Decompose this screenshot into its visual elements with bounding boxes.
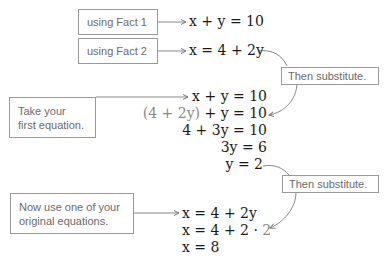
callout-take-first-equation: Take your first equation. bbox=[9, 97, 96, 138]
equation-text: x + y = 10 bbox=[192, 88, 267, 104]
callout-using-fact-1: using Fact 1 bbox=[78, 9, 158, 35]
substituted-value: 2 bbox=[262, 222, 271, 238]
equation-final-2: x = 4 + 2 · 2 bbox=[182, 222, 271, 239]
equation-text: x = 4 + 2 · bbox=[182, 222, 262, 238]
callout-text-line1: Take your bbox=[18, 104, 84, 118]
equation-text: x = 4 + 2y bbox=[182, 205, 257, 221]
callout-then-substitute-1: Then substitute. bbox=[281, 67, 379, 85]
callout-text-line1: Now use one of your bbox=[19, 200, 120, 214]
callout-text-line2: original equations. bbox=[19, 214, 120, 228]
equation-fact-2: x = 4 + 2y bbox=[189, 42, 264, 59]
callout-then-substitute-2: Then substitute. bbox=[282, 175, 379, 193]
equation-text: 4 + 3y = 10 bbox=[182, 122, 267, 138]
substituted-expression: (4 + 2y) bbox=[143, 105, 200, 121]
equation-final-1: x = 4 + 2y bbox=[182, 205, 257, 222]
equation-text: x = 8 bbox=[182, 239, 219, 255]
equation-final-3: x = 8 bbox=[182, 239, 219, 256]
callout-using-fact-2: using Fact 2 bbox=[78, 38, 158, 64]
callout-text: Then substitute. bbox=[289, 177, 367, 191]
equation-text: 3y = 6 bbox=[221, 139, 267, 155]
equation-text: x = 4 + 2y bbox=[189, 42, 264, 58]
equation-text: x + y = 10 bbox=[189, 13, 264, 29]
callout-text: using Fact 2 bbox=[87, 44, 147, 58]
callout-text-line2: first equation. bbox=[18, 118, 84, 132]
callout-now-use-original: Now use one of your original equations. bbox=[10, 193, 134, 234]
callout-text: using Fact 1 bbox=[87, 15, 147, 29]
equation-step-2: (4 + 2y) + y = 10 bbox=[143, 105, 267, 122]
equation-text: y = 2 bbox=[226, 156, 263, 172]
equation-step-1: x + y = 10 bbox=[192, 88, 267, 105]
equation-fact-1: x + y = 10 bbox=[189, 13, 264, 30]
callout-text: Then substitute. bbox=[288, 69, 366, 83]
equation-step-3: 4 + 3y = 10 bbox=[182, 122, 267, 139]
equation-step-4: 3y = 6 bbox=[221, 139, 267, 156]
equation-step-5: y = 2 bbox=[226, 156, 263, 173]
equation-text: + y = 10 bbox=[200, 105, 267, 121]
